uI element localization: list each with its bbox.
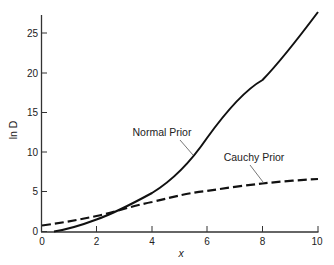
x-tick-label-4: 4 (149, 236, 155, 247)
x-tick-labels: 0 2 4 6 8 10 (39, 236, 323, 247)
cauchy-prior-label: Cauchy Prior (224, 151, 285, 163)
y-tick-label-5: 5 (32, 186, 38, 197)
x-tick-label-0: 0 (39, 236, 45, 247)
x-axis-title: x (177, 247, 184, 259)
x-tick-label-8: 8 (260, 236, 266, 247)
y-axis-title: ln D (7, 120, 19, 139)
y-tick-label-20: 20 (27, 68, 39, 79)
normal-prior-curve (54, 12, 318, 232)
y-tick-label-25: 25 (27, 28, 39, 39)
y-tick-label-10: 10 (27, 147, 39, 158)
line-chart: 0 5 10 15 20 25 0 2 4 6 8 10 x ln D Norm… (0, 0, 334, 265)
cauchy-prior-leader-line (250, 165, 263, 182)
normal-prior-annotation: Normal Prior (133, 126, 193, 155)
y-tick-label-15: 15 (27, 107, 39, 118)
cauchy-prior-curve (42, 179, 318, 226)
normal-prior-leader-line (180, 140, 193, 155)
x-tick-label-6: 6 (204, 236, 210, 247)
normal-prior-label: Normal Prior (133, 126, 192, 138)
x-tick-label-10: 10 (311, 236, 323, 247)
y-ticks (42, 33, 48, 232)
cauchy-prior-annotation: Cauchy Prior (224, 151, 285, 182)
y-tick-label-0: 0 (32, 226, 38, 237)
x-ticks (97, 226, 319, 232)
y-tick-labels: 0 5 10 15 20 25 (27, 28, 39, 237)
x-tick-label-2: 2 (94, 236, 100, 247)
